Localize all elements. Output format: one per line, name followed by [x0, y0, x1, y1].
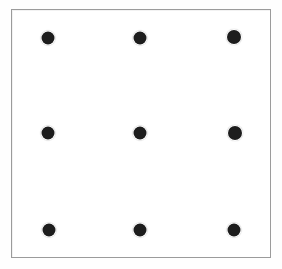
dot-r1c3 — [227, 30, 241, 44]
figure-canvas — [0, 0, 282, 269]
dot-r2c2 — [134, 127, 147, 140]
dot-r2c3 — [228, 126, 242, 140]
dot-r3c2 — [134, 224, 147, 237]
dot-r1c1 — [42, 32, 55, 45]
dot-r1c2 — [134, 32, 147, 45]
dot-grid — [0, 0, 282, 269]
dot-r2c1 — [42, 127, 55, 140]
dot-r3c3 — [228, 224, 241, 237]
dot-r3c1 — [43, 224, 56, 237]
